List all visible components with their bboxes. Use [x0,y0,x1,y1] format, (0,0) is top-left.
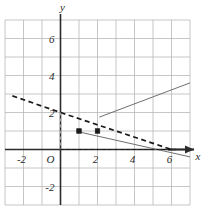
y-tick-label--2: -2 [45,181,55,193]
point-marker-b [95,129,100,134]
x-tick-label-6: 6 [167,153,173,165]
series-dashed-line [12,96,171,150]
axes-group [5,14,194,205]
x-tick-label-2: 2 [93,153,99,165]
coordinate-plane-svg: -2246-2246Oxy [0,0,206,206]
point-marker-a [77,129,82,134]
grid-lines [5,20,190,205]
tick-labels-group: -2246-2246Oxy [17,1,201,193]
origin-label: O [47,153,55,165]
x-tick-label-4: 4 [130,153,136,165]
series-solid-ray-up-right [99,83,190,117]
y-axis-label: y [59,1,65,13]
x-axis-label: x [195,150,201,162]
y-tick-label-2: 2 [49,107,55,119]
y-tick-label-4: 4 [49,70,55,82]
x-axis-arrowhead-icon [185,146,194,154]
x-tick-label--2: -2 [17,153,27,165]
y-tick-label-6: 6 [49,33,55,45]
graph-figure: -2246-2246Oxy [0,0,206,206]
